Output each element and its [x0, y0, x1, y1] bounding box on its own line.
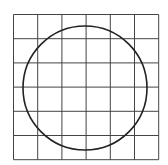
grid-circle-diagram: [0, 0, 168, 165]
circle-outline: [23, 26, 147, 150]
square-grid: [14, 15, 159, 160]
